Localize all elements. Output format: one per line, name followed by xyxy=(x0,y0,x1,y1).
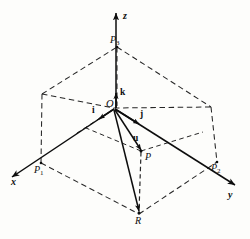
point-label-P: P xyxy=(145,152,151,162)
point-label-R: R xyxy=(135,216,141,226)
OR-shaft xyxy=(114,110,139,211)
axis-label-y: y xyxy=(228,190,232,200)
point-markers xyxy=(40,46,219,215)
vector-label-j: j xyxy=(140,110,143,120)
point-label-P2: P2 xyxy=(211,163,221,175)
figure-3d-coordinate-system: z x y O P3 P1 P2 P R k i j u xyxy=(0,0,250,239)
bottom-face-edge-right xyxy=(139,162,217,214)
vector-i xyxy=(99,109,114,119)
point-label-P3: P3 xyxy=(110,35,120,47)
top-face-edge-back-right xyxy=(117,47,211,107)
vertical-edge-right xyxy=(211,107,217,162)
top-face-edge-front-left xyxy=(42,94,114,108)
i-shaft xyxy=(99,109,114,119)
dashed-drop-P-to-R xyxy=(139,152,141,212)
marker-P xyxy=(140,150,143,153)
figure-canvas xyxy=(0,0,250,239)
vertical-edge-left xyxy=(41,94,42,163)
axis-label-x: x xyxy=(11,177,16,187)
x-axis-shaft xyxy=(12,109,114,177)
vector-label-i: i xyxy=(92,106,95,116)
point-label-P1: P1 xyxy=(34,165,44,177)
bottom-face-edge-left xyxy=(41,163,139,214)
top-face-edge-back-left xyxy=(42,47,117,94)
axis-label-z: z xyxy=(123,11,127,21)
point-label-O: O xyxy=(106,99,114,110)
vector-O-to-R xyxy=(114,110,139,211)
guide-P-to-right xyxy=(141,132,203,151)
axis-x-line xyxy=(12,109,114,177)
drop-line-P-R xyxy=(139,152,141,212)
vector-label-k: k xyxy=(120,88,125,98)
dashed-top-face xyxy=(42,47,211,108)
vector-label-u: u xyxy=(133,134,138,144)
top-face-edge-front-right xyxy=(114,107,211,108)
dashed-vertical-edges xyxy=(41,47,217,163)
